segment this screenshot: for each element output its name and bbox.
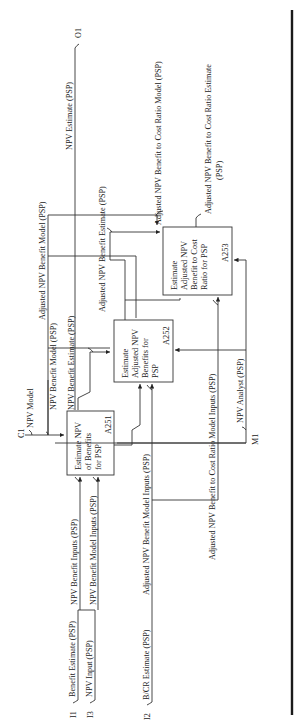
mechanism-m1-code: M1 <box>251 434 260 445</box>
a253-line3: Benefit to Cost <box>190 239 199 290</box>
a253-line2: Adjusted NPV <box>180 241 189 290</box>
npv-benefit-estimate-arrow <box>78 352 110 410</box>
idef0-diagram: NPV Estimate (PSP) O1 C1 NPV Model NPV B… <box>0 0 299 726</box>
npv-benefit-model-label: NPV Benefit Model (PSP) <box>49 323 58 410</box>
a252-line3: Benefits for <box>141 338 150 378</box>
activity-a252[interactable]: Estimate Adjusted NPV Benefits for PSP A… <box>114 320 173 382</box>
mechanism-m1-label: NPV Analyst (PSP) <box>236 358 245 423</box>
input-i3-label: NPV Input (PSP) <box>85 640 94 697</box>
a253-line4: Ratio for PSP <box>200 244 209 290</box>
adj-npv-benefit-model-label: Adjusted NPV Benefit Model (PSP) <box>38 201 47 320</box>
output-o1-label: NPV Estimate (PSP) <box>65 82 74 150</box>
a252-line1: Estimate <box>121 348 130 378</box>
npv-benefit-inputs-label: NPV Benefit Inputs (PSP) <box>70 519 79 605</box>
control-c1-label: NPV Model <box>26 388 35 428</box>
a251-id: A251 <box>104 415 113 434</box>
npv-benefit-model-inputs-label: NPV Benefit Model Inputs (PSP) <box>89 495 98 605</box>
adj-bcr-estimate-label-line1: Adjusted NPV Benefit to Cost Ratio Estim… <box>204 64 213 214</box>
control-c1-code: C1 <box>17 428 26 438</box>
adj-npv-benefit-estimate-line <box>125 298 180 320</box>
a251-to-a252-arrow <box>114 384 140 445</box>
input-i2-code: I2 <box>143 713 152 720</box>
adj-npv-benefit-model-inputs-label: Adjusted NPV Benefit Model Inputs (PSP) <box>142 454 151 595</box>
a252-id: A252 <box>162 326 171 345</box>
adj-bcr-estimate-label-line2: (PSP) <box>215 161 224 180</box>
a251-line1: Estimate NPV <box>74 422 83 470</box>
a253-id: A253 <box>221 243 230 262</box>
npv-benefit-estimate-label: NPV Benefit Estimate (PSP) <box>67 315 76 410</box>
output-o1-code: O1 <box>74 28 83 38</box>
a253-line1: Estimate <box>170 260 179 290</box>
a252-line4: PSP <box>151 364 160 378</box>
a252-line2: Adjusted NPV <box>131 329 140 378</box>
activity-a253[interactable]: Estimate Adjusted NPV Benefit to Cost Ra… <box>163 227 232 295</box>
input-i1-code: I1 <box>69 711 78 718</box>
input-i3-code: I3 <box>86 711 95 718</box>
a251-line2: of Benefits <box>84 433 93 470</box>
adj-npv-benefit-estimate-label: Adjusted NPV Benefit Estimate (PSP) <box>98 186 107 312</box>
adj-bcr-model-label: Adjusted NPV Benefit to Cost Ratio Model… <box>154 61 163 225</box>
a251-line3: for PSP <box>94 444 103 470</box>
input-i2-label: B/CR Estimate (PSP) <box>142 629 151 700</box>
adj-bcr-model-inputs-label: Adjusted NPV Benefit to Cost Ratio Model… <box>208 373 217 560</box>
input-i1-label: Benefit Estimate (PSP) <box>68 621 77 697</box>
